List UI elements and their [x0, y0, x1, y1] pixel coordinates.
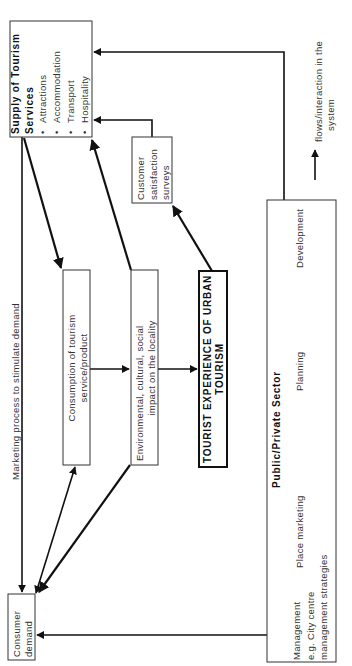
supply-item-attractions: Attractions	[37, 75, 48, 123]
impact-line2: impact on the locality	[146, 320, 157, 415]
arrow-impact-to-supply	[92, 140, 131, 270]
legend-line1: flows/interaction in the	[313, 41, 324, 142]
arrow-experience-to-surveys	[173, 206, 212, 271]
arrow-supply-to-consumption	[24, 138, 61, 268]
supply-box: Supply of Tourism Services • Attractions…	[10, 21, 92, 137]
consumer-demand-box: Consumer demand	[8, 594, 35, 660]
sector-management-line1: Management	[291, 601, 302, 660]
public-private-sector-box: Public/Private Sector Management e.g. Ci…	[267, 200, 336, 662]
arrow-surveys-to-supply	[94, 120, 152, 137]
bullet-icon: •	[51, 130, 62, 134]
bullet-icon: •	[37, 130, 48, 134]
demand-line1: Consumer	[11, 611, 22, 657]
supply-item-hospitality: Hospitality	[79, 76, 90, 123]
arrow-demand-consumption	[36, 467, 75, 593]
arrow-impact-to-demand	[39, 465, 130, 592]
experience-line2: TOURISM	[214, 343, 225, 395]
supply-item-accommodation: Accommodation	[51, 51, 62, 123]
consumption-line1: Consumption of tourism	[66, 315, 77, 422]
sector-planning: Planning	[294, 352, 305, 391]
surveys-line3: surveys	[160, 165, 171, 200]
bullet-icon: •	[65, 130, 76, 134]
sector-place-marketing: Place marketing	[294, 495, 305, 568]
tourism-system-diagram: Supply of Tourism Services • Attractions…	[0, 0, 352, 666]
surveys-line1: Customer	[135, 156, 146, 200]
legend-line2: system	[325, 99, 336, 131]
surveys-line2: satisfaction	[148, 149, 159, 200]
bullet-icon: •	[79, 130, 90, 134]
sector-title: Public/Private Sector	[271, 371, 282, 488]
tourist-experience-box: TOURIST EXPERIENCE OF URBAN TOURISM	[199, 271, 227, 467]
supply-item-transport: Transport	[65, 80, 76, 123]
consumption-box: Consumption of tourism service/product	[63, 270, 90, 465]
sector-management-line3: management strategies	[318, 554, 329, 660]
customer-surveys-box: Customer satisfaction surveys	[132, 137, 172, 203]
experience-line1: TOURIST EXPERIENCE OF URBAN	[202, 275, 213, 463]
impact-line1: Environmental, cultural, social	[134, 326, 145, 462]
demand-line2: demand	[23, 621, 34, 657]
supply-title-line1: Supply of Tourism	[10, 33, 21, 134]
arrow-sector-to-supply	[94, 52, 284, 200]
sector-development: Development	[294, 209, 305, 268]
legend: flows/interaction in the system	[313, 41, 336, 142]
marketing-process-label: Marketing process to stimulate demand	[10, 303, 21, 480]
consumption-line2: service/product	[78, 333, 89, 402]
impact-box: Environmental, cultural, social impact o…	[131, 270, 158, 465]
supply-title-line2: Services	[24, 86, 35, 134]
sector-management-line2: e.g. City centre	[305, 591, 316, 660]
